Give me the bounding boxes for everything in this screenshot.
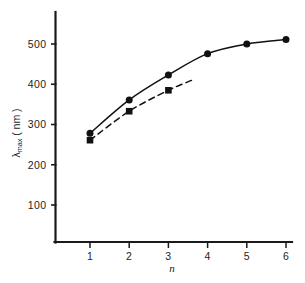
x-tick-label: 5: [244, 250, 250, 262]
x-tick-label: 2: [126, 250, 132, 262]
x-axis-title: n: [169, 262, 175, 274]
x-tick-label: 3: [165, 250, 171, 262]
data-point-square: [87, 137, 94, 144]
data-point-circle: [126, 96, 133, 103]
data-point-circle: [283, 36, 290, 43]
x-tick-label: 4: [204, 250, 210, 262]
data-point-circle: [204, 50, 211, 57]
chart-figure: 100200300400500 123456 λmax ( nm ) n: [0, 0, 305, 283]
data-point-square: [165, 87, 172, 94]
data-point-circle: [165, 71, 172, 78]
data-point-circle: [243, 41, 250, 48]
y-tick-label: 100: [28, 199, 47, 211]
x-tick-label: 1: [87, 250, 93, 262]
data-point-circle: [87, 130, 94, 137]
y-tick-label: 200: [28, 159, 47, 171]
data-point-square: [126, 108, 133, 115]
line-chart: 100200300400500 123456 λmax ( nm ) n: [0, 0, 305, 283]
y-tick-label: 300: [28, 118, 47, 130]
y-tick-label: 500: [28, 38, 47, 50]
y-tick-label: 400: [28, 78, 47, 90]
x-tick-label: 6: [283, 250, 289, 262]
